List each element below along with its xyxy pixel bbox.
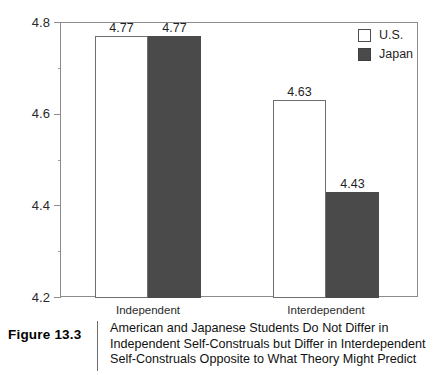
bar-value-independent-japan: 4.77 bbox=[148, 22, 201, 35]
plot-area: 4.77 4.77 4.63 4.43 bbox=[60, 22, 418, 297]
y-axis-label-4-6: 4.6 bbox=[4, 107, 50, 120]
legend-item-japan[interactable]: Japan bbox=[358, 47, 413, 61]
caption-text: American and Japanese Students Do Not Di… bbox=[110, 321, 446, 368]
bar-independent-us[interactable] bbox=[95, 36, 148, 298]
bar-independent-japan[interactable] bbox=[148, 36, 201, 298]
x-axis-category-independent: Independent bbox=[88, 305, 208, 317]
caption-line-1: American and Japanese Students Do Not Di… bbox=[110, 321, 446, 337]
caption-divider bbox=[97, 321, 98, 371]
caption-line-2: Independent Self-Construals but Differ i… bbox=[110, 337, 446, 353]
figure-13-3: 4.8 4.6 4.4 4.2 4.77 4.77 4.63 4.43 U.S. bbox=[0, 0, 448, 375]
bar-value-interdependent-us: 4.63 bbox=[273, 86, 326, 99]
legend-swatch-us-icon bbox=[358, 29, 371, 42]
x-axis-category-interdependent: Interdependent bbox=[266, 305, 386, 317]
legend-label-japan: Japan bbox=[379, 48, 413, 61]
y-axis-tick-4-2 bbox=[54, 297, 61, 298]
figure-number: Figure 13.3 bbox=[8, 328, 92, 343]
y-axis-label-4-2: 4.2 bbox=[4, 291, 50, 304]
figure-caption: Figure 13.3 American and Japanese Studen… bbox=[0, 321, 448, 375]
y-axis-label-4-4: 4.4 bbox=[4, 199, 50, 212]
bar-interdependent-us[interactable] bbox=[273, 100, 326, 298]
legend-swatch-japan-icon bbox=[358, 48, 371, 61]
bar-value-interdependent-japan: 4.43 bbox=[326, 178, 379, 191]
y-axis-label-4-8: 4.8 bbox=[4, 16, 50, 29]
legend-label-us: U.S. bbox=[379, 29, 403, 42]
bar-value-independent-us: 4.77 bbox=[95, 22, 148, 35]
legend-item-us[interactable]: U.S. bbox=[358, 28, 413, 42]
legend: U.S. Japan bbox=[358, 28, 413, 61]
bar-interdependent-japan[interactable] bbox=[326, 192, 379, 298]
caption-line-3: Self-Construals Opposite to What Theory … bbox=[110, 352, 446, 368]
